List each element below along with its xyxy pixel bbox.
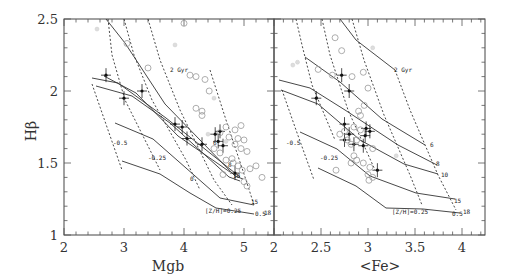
right-z-line-0 <box>352 19 422 205</box>
left-xtick-5: 5 <box>240 240 248 255</box>
data-point <box>145 65 151 71</box>
right-age-line-18 <box>318 168 460 213</box>
data-point <box>239 167 245 173</box>
data-point <box>244 183 250 189</box>
data-point <box>206 88 212 94</box>
data-point <box>210 127 220 141</box>
data-point <box>253 163 259 169</box>
left-annot-18: 18 <box>264 209 272 216</box>
data-point <box>220 172 226 178</box>
data-point <box>360 69 366 75</box>
data-point <box>193 74 199 80</box>
data-point <box>244 148 250 154</box>
ylabel: Hβ <box>23 121 39 141</box>
data-point <box>95 27 99 31</box>
data-point <box>241 137 247 143</box>
data-point <box>238 146 244 152</box>
right-xtick-2.5: 2.5 <box>311 240 332 255</box>
right-annot-2gyr: 2 Gyr <box>394 66 412 74</box>
right-annot-m05: -0.5 <box>286 139 301 146</box>
right-xtick-2: 2 <box>270 240 278 255</box>
right-xtick-3.5: 3.5 <box>405 240 426 255</box>
left-z-line-m025 <box>124 19 200 190</box>
data-point <box>372 163 382 177</box>
left-xtick-4: 4 <box>180 240 188 255</box>
data-point <box>337 68 347 82</box>
data-point <box>259 174 265 180</box>
data-point <box>206 132 210 136</box>
left-age-line-6 <box>104 76 230 172</box>
data-point <box>371 46 375 50</box>
data-point <box>354 137 360 143</box>
data-point <box>224 139 228 143</box>
figure: 2.5 2 1.5 1 2 3 4 5 2 2.5 3 3.5 4 Mgb <F… <box>0 0 510 278</box>
data-point <box>235 136 241 142</box>
left-age-line-10 <box>96 86 240 181</box>
data-point <box>217 150 223 156</box>
right-annot-8: 8 <box>436 160 440 167</box>
data-point <box>223 124 229 130</box>
data-point <box>193 105 199 111</box>
data-point <box>119 91 129 105</box>
data-point <box>232 127 238 133</box>
right-annot-6: 6 <box>430 141 434 148</box>
right-annot-15: 15 <box>454 197 462 204</box>
data-point <box>182 132 192 146</box>
data-point <box>173 43 177 47</box>
ytick-2.5: 2.5 <box>37 12 58 27</box>
right-age-line-2gyr <box>340 19 395 70</box>
left-age-line-8 <box>92 78 240 177</box>
left-xlabel: Mgb <box>152 258 184 274</box>
right-annot-18: 18 <box>463 208 471 215</box>
data-point <box>337 131 343 137</box>
data-point <box>351 153 357 159</box>
right-model-grid <box>279 19 460 213</box>
data-points <box>95 20 398 189</box>
left-annot-m025: -0.25 <box>148 154 166 161</box>
right-age-line-8 <box>279 80 437 165</box>
data-point <box>360 160 366 166</box>
data-point <box>215 124 225 138</box>
data-point <box>187 72 193 78</box>
data-point <box>349 74 355 80</box>
left-xtick-3: 3 <box>120 240 128 255</box>
data-point <box>339 48 345 54</box>
right-xtick-3: 3 <box>364 240 372 255</box>
data-point <box>311 91 321 105</box>
left-model-grid <box>92 19 254 214</box>
data-point <box>333 167 339 173</box>
right-xtick-4: 4 <box>458 240 466 255</box>
data-point <box>365 85 371 91</box>
data-point <box>332 35 338 41</box>
left-annot-15: 15 <box>251 198 259 205</box>
data-point <box>367 164 373 170</box>
data-point <box>357 127 363 133</box>
data-point <box>202 76 208 82</box>
data-point <box>199 112 205 118</box>
data-point <box>211 146 217 152</box>
data-point <box>344 84 354 98</box>
right-annot-m025: -0.25 <box>320 154 338 161</box>
data-point <box>291 63 295 67</box>
data-point <box>247 166 253 172</box>
right-z-line-low <box>282 90 314 180</box>
right-xlabel: <Fe> <box>360 258 401 274</box>
right-annot-zh: [Z/H]=0.25 <box>392 208 429 215</box>
data-point <box>315 66 321 72</box>
right-annot-10: 10 <box>441 171 449 178</box>
ytick-2: 2 <box>50 84 58 99</box>
data-point <box>229 156 235 162</box>
left-xtick-2: 2 <box>60 240 68 255</box>
right-z-line-m025 <box>322 19 375 170</box>
left-age-line-15 <box>115 123 254 205</box>
data-point <box>354 157 360 163</box>
data-point <box>212 96 216 100</box>
data-point <box>296 60 300 64</box>
left-z-line-low <box>92 84 122 170</box>
ytick-1: 1 <box>50 228 58 243</box>
left-annot-m05: -0.5 <box>113 139 128 146</box>
right-annot-05: 0.5 <box>452 210 463 217</box>
left-annot-2gyr: 2 Gyr <box>170 66 188 74</box>
data-point <box>226 134 232 140</box>
right-z-line-m05 <box>296 19 335 140</box>
